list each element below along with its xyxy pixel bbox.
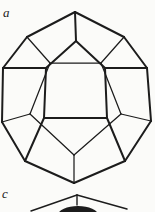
edge-F5-F1 xyxy=(46,41,76,68)
edge-Bul-D10 xyxy=(27,37,50,63)
edge-D10-D1 xyxy=(27,12,75,37)
figure-c-label: c xyxy=(2,187,8,200)
dodecahedron-front-edges xyxy=(2,12,151,183)
edge-D9-D10 xyxy=(3,37,27,68)
edge-F1-D1 xyxy=(75,12,76,41)
figc-dark-blob xyxy=(58,206,98,212)
edge-D2-D3 xyxy=(124,37,147,68)
edge-D7-D8 xyxy=(2,122,25,161)
edge-Bur-Br xyxy=(101,63,121,114)
dodecahedron-figure-svg xyxy=(0,0,155,212)
edge-D3-D4 xyxy=(147,68,151,121)
edge-F4-F5 xyxy=(44,68,46,118)
figure-a-label: a xyxy=(3,6,10,19)
edge-D8-D9 xyxy=(2,68,3,122)
edge-Bl-D8 xyxy=(2,114,30,122)
edge-F1-F2 xyxy=(76,41,105,68)
edge-F3-D5 xyxy=(107,118,125,161)
edge-D1-D2 xyxy=(75,12,124,37)
edge-Bl-Bul xyxy=(30,63,50,114)
edge-Bur-D2 xyxy=(101,37,124,63)
edge-Br-D4 xyxy=(121,114,151,121)
edge-D6-D7 xyxy=(25,161,74,183)
edge-D4-D5 xyxy=(125,121,151,161)
edge-F2-F3 xyxy=(105,68,107,118)
edge-F4-D7 xyxy=(25,118,44,161)
partial-figure-c xyxy=(31,195,127,212)
figure-panel: a c xyxy=(0,0,155,212)
edge-D5-D6 xyxy=(74,161,125,183)
